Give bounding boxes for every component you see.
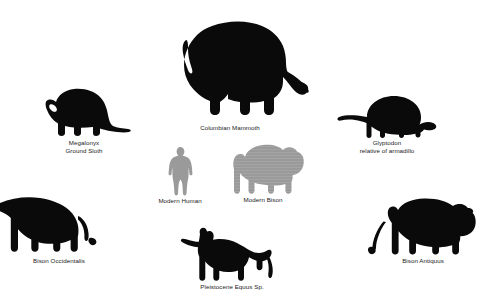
caption-bison-occidentalis: Bison Occidentalis — [33, 257, 85, 265]
figure-columbian-mammoth: Columbian Mammoth — [150, 18, 310, 132]
caption-occidentalis-line1: Bison Occidentalis — [33, 257, 85, 264]
megalonyx-silhouette — [36, 86, 132, 138]
caption-glyptodon: Glyptodon relative of armadillo — [360, 139, 415, 154]
caption-antiquus-line1: Bison Antiquus — [402, 257, 444, 264]
caption-equus-line1: Pleistocene Equus Sp. — [200, 283, 263, 290]
columbian-mammoth-silhouette — [150, 18, 310, 123]
caption-mammoth-line1: Columbian Mammoth — [200, 124, 260, 131]
figure-megalonyx: Megalonyx Ground Sloth — [36, 86, 132, 154]
caption-pleistocene-equus: Pleistocene Equus Sp. — [200, 283, 263, 291]
figure-pleistocene-equus: Pleistocene Equus Sp. — [180, 226, 284, 291]
figure-glyptodon: Glyptodon relative of armadillo — [337, 92, 437, 154]
caption-human-line1: Modern Human — [158, 197, 201, 204]
figure-bison-occidentalis: Bison Occidentalis — [0, 196, 114, 265]
figure-modern-human: Modern Human — [147, 146, 213, 205]
pleistocene-equus-silhouette — [180, 226, 284, 282]
caption-megalonyx: Megalonyx Ground Sloth — [65, 139, 102, 154]
bison-occidentalis-silhouette — [0, 196, 114, 256]
figure-bison-antiquus: Bison Antiquus — [362, 198, 484, 265]
caption-megalonyx-line1: Megalonyx — [69, 139, 99, 146]
caption-columbian-mammoth: Columbian Mammoth — [200, 124, 260, 132]
modern-human-silhouette — [147, 146, 213, 196]
caption-modern-bison-line1: Modern Bison — [244, 196, 283, 203]
figure-modern-bison: Modern Bison — [215, 143, 311, 204]
modern-bison-silhouette — [215, 143, 311, 195]
glyptodon-silhouette — [337, 92, 437, 138]
caption-modern-bison: Modern Bison — [244, 196, 283, 204]
caption-modern-human: Modern Human — [158, 197, 201, 205]
bison-antiquus-silhouette — [362, 198, 484, 256]
caption-glyptodon-line1: Glyptodon — [373, 139, 402, 146]
caption-megalonyx-line2: Ground Sloth — [65, 147, 102, 155]
caption-glyptodon-line2: relative of armadillo — [360, 147, 415, 155]
megafauna-size-comparison-diagram: Megalonyx Ground Sloth Columbian Mammoth… — [0, 0, 496, 305]
caption-bison-antiquus: Bison Antiquus — [402, 257, 444, 265]
